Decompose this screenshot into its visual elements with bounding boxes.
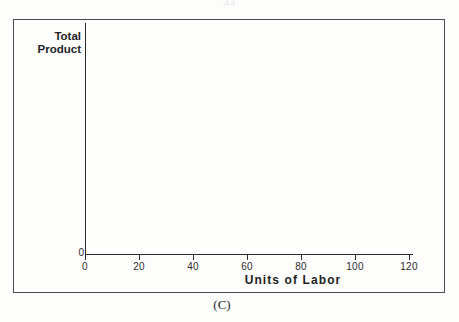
page-number: 33 [0, 0, 459, 7]
x-axis-title: Units of Labor [194, 273, 392, 287]
x-axis-tick [247, 255, 248, 260]
y-axis-title-line-2: Product [14, 43, 81, 56]
x-axis-tick [193, 255, 194, 260]
x-axis-tick [85, 255, 86, 260]
x-axis-tick [139, 255, 140, 260]
x-axis-tick-label: 120 [389, 261, 429, 272]
x-axis-tick-label: 0 [65, 261, 105, 272]
y-axis-title: Total Product [14, 30, 81, 56]
x-axis-tick-label: 20 [119, 261, 159, 272]
x-axis-tick-label: 60 [227, 261, 267, 272]
x-axis-tick-label: 100 [335, 261, 375, 272]
x-axis-tick [409, 255, 410, 260]
x-axis-tick-label: 40 [173, 261, 213, 272]
y-axis-title-line-1: Total [14, 30, 81, 43]
figure-caption: (C) [13, 297, 431, 313]
figure-frame: Total Product 0 0 20 40 60 80 100 120 Un… [13, 19, 445, 293]
y-axis-line [85, 23, 86, 255]
x-axis-line [85, 254, 413, 255]
x-axis-tick [355, 255, 356, 260]
figure-page: 33 Total Product 0 0 20 40 60 80 100 120… [0, 0, 459, 322]
x-axis-tick-label: 80 [281, 261, 321, 272]
x-axis-tick [301, 255, 302, 260]
y-axis-origin-label: 0 [74, 247, 84, 258]
